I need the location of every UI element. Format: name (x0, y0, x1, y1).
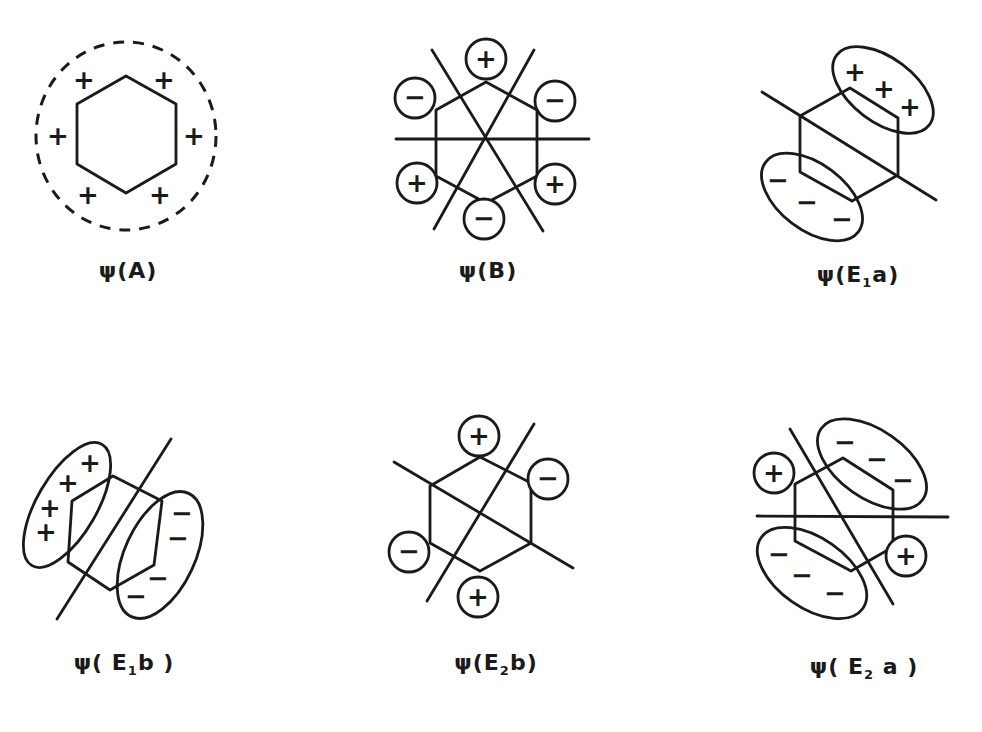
label-psi-e1b: ψ( E1b ) (74, 650, 175, 678)
orbital-lobe-plus: + (458, 577, 498, 617)
label-suffix: ) (155, 650, 175, 675)
svg-text:+: + (468, 421, 490, 451)
label-prefix: ψ( (99, 258, 129, 283)
label-prefix: ψ( (454, 650, 484, 675)
orbital-lobe-plus: + (886, 536, 926, 576)
panel-psi-e1b: + + + + − − − − (6, 429, 220, 631)
orbital-lobe-plus: + (466, 39, 506, 79)
label-psi-a: ψ(A) (99, 258, 158, 283)
label-main: E (846, 262, 862, 287)
orbital-lobe-plus: + (459, 416, 499, 456)
svg-text:+: + (475, 44, 497, 74)
minus-sign: − (866, 444, 888, 474)
minus-sign: − (824, 578, 846, 608)
minus-sign: − (791, 560, 813, 590)
svg-text:−: − (473, 203, 495, 233)
minus-sign: − (892, 465, 914, 495)
label-prefix: ψ( (817, 262, 847, 287)
orbital-lobe-minus: − (389, 532, 429, 572)
label-main: E (848, 654, 864, 679)
svg-text:−: − (537, 463, 559, 493)
label-suffix: ) (899, 654, 919, 679)
svg-text:−: − (544, 85, 566, 115)
orbital-lobe-minus: − (528, 459, 568, 499)
plus-sign: + (153, 65, 175, 95)
minus-sign: − (831, 204, 853, 234)
label-psi-e1a: ψ(E1a) (817, 262, 900, 290)
label-suffix: ) (506, 258, 517, 283)
plus-sign: + (183, 121, 205, 151)
svg-text:+: + (544, 169, 566, 199)
svg-text:+: + (763, 458, 785, 488)
orbital-lobe-minus: − (535, 81, 575, 121)
svg-text:+: + (406, 168, 428, 198)
plus-sign: + (35, 517, 57, 547)
svg-text:+: + (467, 582, 489, 612)
panel-psi-e1a: + + + − − − (746, 30, 949, 259)
label-tail: a (872, 262, 888, 287)
orbital-lobe-minus: − (464, 199, 504, 239)
label-psi-e2b: ψ(E2b) (454, 650, 537, 678)
plus-sign: + (873, 74, 895, 104)
svg-text:+: + (895, 541, 917, 571)
panel-psi-e2a: + + − − − − − − (741, 401, 948, 638)
label-tail: b (510, 650, 527, 675)
label-prefix: ψ( (74, 650, 112, 675)
svg-text:−: − (398, 536, 420, 566)
benzene-hexagon (436, 82, 537, 203)
minus-sign: − (147, 563, 169, 593)
label-main: B (488, 258, 506, 283)
label-suffix: ) (527, 650, 538, 675)
label-main: E (484, 650, 500, 675)
plus-sign: + (79, 448, 101, 478)
minus-sign: − (834, 427, 856, 457)
svg-text:−: − (404, 82, 426, 112)
orbital-lobe-minus: − (395, 78, 435, 118)
plus-sign: + (844, 57, 866, 87)
label-psi-b: ψ(B) (459, 258, 517, 283)
label-subscript: 2 (500, 663, 510, 678)
plus-sign: + (899, 92, 921, 122)
plus-sign: + (73, 65, 95, 95)
minus-sign: − (768, 539, 790, 569)
label-tail: a (874, 654, 899, 679)
label-psi-e2a: ψ( E2 a ) (810, 654, 919, 682)
label-tail: b (138, 650, 155, 675)
label-suffix: ) (888, 262, 899, 287)
label-suffix: ) (146, 258, 157, 283)
label-main: E (112, 650, 128, 675)
orbital-diagram-canvas: + + + + + + + − − + + − + + + − − − + (0, 0, 982, 732)
orbital-lobe-plus: + (535, 164, 575, 204)
nodal-plane (757, 516, 948, 517)
label-subscript: 1 (128, 663, 138, 678)
plus-sign: + (149, 180, 171, 210)
orbital-lobe-plus: + (754, 453, 794, 493)
label-prefix: ψ( (459, 258, 489, 283)
minus-sign: − (767, 165, 789, 195)
orbital-lobe-plus: + (397, 163, 437, 203)
minus-sign: − (796, 187, 818, 217)
plus-sign: + (47, 121, 69, 151)
label-subscript: 1 (862, 275, 872, 290)
minus-sign: − (167, 523, 189, 553)
panel-psi-b: + − − + + − (395, 39, 589, 239)
label-main: A (128, 258, 146, 283)
label-subscript: 2 (864, 667, 874, 682)
minus-sign: − (125, 581, 147, 611)
label-prefix: ψ( (810, 654, 848, 679)
panel-psi-e2b: + − − + (389, 416, 573, 617)
panel-psi-a: + + + + + + (36, 42, 216, 230)
plus-sign: + (77, 180, 99, 210)
